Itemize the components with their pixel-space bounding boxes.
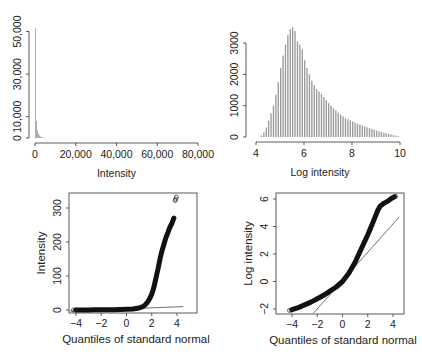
x-tick-label: 10 <box>394 147 406 159</box>
x-tick-label: −2 <box>311 318 323 330</box>
y-tick-label: 10,000 <box>11 100 23 132</box>
y-axis: 0100020003000 <box>228 31 246 140</box>
y-tick-label: 0 <box>51 307 63 313</box>
x-tick-label: 2 <box>149 317 155 329</box>
y-tick-label: 3000 <box>228 31 240 55</box>
y-tick-label: 2 <box>258 251 270 257</box>
histogram-bar <box>36 121 37 138</box>
x-tick-label: 6 <box>301 147 307 159</box>
histogram-bar <box>266 128 267 137</box>
histogram-bar <box>280 68 281 137</box>
qq-points-sparse <box>287 194 397 312</box>
histogram-bar <box>359 124 360 137</box>
histogram-bar <box>357 124 358 137</box>
histogram-bar <box>44 138 45 139</box>
histogram-bar <box>304 60 305 137</box>
x-tick-label: 4 <box>174 317 180 329</box>
histogram-bar <box>340 114 341 137</box>
x-tick-label: 8 <box>349 147 355 159</box>
x-tick-label: 0 <box>32 148 38 160</box>
histogram-bar <box>383 133 384 137</box>
histogram-bar <box>35 28 36 138</box>
histogram-bar <box>333 108 334 137</box>
histogram-bar <box>374 130 375 137</box>
histogram-bar <box>381 132 382 137</box>
histogram-bar <box>369 128 370 137</box>
histogram-bar <box>378 131 379 137</box>
histogram-bar <box>393 135 394 137</box>
histogram-bar <box>282 56 283 137</box>
histogram-bar <box>376 131 377 137</box>
histogram-bar <box>41 137 42 138</box>
y-tick-label: 200 <box>51 233 63 251</box>
histogram-bar <box>321 94 322 137</box>
y-tick-label: 0 <box>258 278 270 284</box>
histogram-bar <box>362 125 363 137</box>
x-axis: −4−2024Quantiles of standard normal <box>269 314 417 346</box>
y-tick-label: 0 <box>228 134 240 140</box>
histogram-bar <box>390 134 391 137</box>
histogram-bar <box>371 129 372 137</box>
histogram-bar <box>311 81 312 137</box>
histogram-bars <box>261 27 399 137</box>
y-axis-label: Intensity <box>35 231 47 274</box>
x-tick-label: −4 <box>286 318 298 330</box>
histogram-bar <box>306 68 307 137</box>
histogram-bar <box>350 120 351 137</box>
x-tick-label: 60,000 <box>141 148 173 160</box>
histogram-bar <box>40 137 41 138</box>
histogram-bar <box>326 100 327 137</box>
histogram-bar <box>366 127 367 137</box>
histogram-bar <box>290 29 291 137</box>
histogram-bar <box>299 45 300 137</box>
plot-area <box>287 194 399 313</box>
histogram-bar <box>398 136 399 137</box>
x-axis-label: Quantiles of standard normal <box>62 333 210 345</box>
histogram-bar <box>316 89 317 137</box>
histogram-bar <box>323 97 324 137</box>
x-tick-label: 20,000 <box>60 148 92 160</box>
x-axis-label: Quantiles of standard normal <box>269 334 417 346</box>
histogram-bar <box>263 132 264 137</box>
histogram-bar <box>330 106 331 137</box>
histogram-bar <box>302 49 303 137</box>
histogram-bar <box>354 123 355 137</box>
histogram-bar <box>37 131 38 138</box>
x-tick-label: 0 <box>340 318 346 330</box>
x-axis: −4−2024Quantiles of standard normal <box>62 313 210 345</box>
x-tick-label: 0 <box>124 317 130 329</box>
histogram-bar <box>268 121 269 137</box>
histogram-bar <box>275 95 276 137</box>
histogram-bar <box>386 133 387 137</box>
histogram-bar <box>273 106 274 137</box>
histogram-bar <box>345 118 346 137</box>
y-tick-label: 30,000 <box>11 58 23 90</box>
histogram-bar <box>318 92 319 137</box>
y-tick-label: 300 <box>51 199 63 217</box>
x-axis-label: Log intensity <box>291 166 351 178</box>
y-axis: 010,00030,00050,000 <box>11 15 29 141</box>
histogram-bar <box>314 85 315 137</box>
x-tick-label: 80,000 <box>182 148 214 160</box>
histogram-bar <box>38 134 39 138</box>
histogram-bar <box>388 134 389 137</box>
histogram-bar <box>261 135 262 137</box>
y-tick-label: 4 <box>258 223 270 229</box>
x-tick-label: 2 <box>365 318 371 330</box>
panel-intensity-qq-plot: −4−2024Quantiles of standard normal01002… <box>35 193 210 345</box>
histogram-bar <box>294 31 295 137</box>
histogram-bar <box>347 119 348 137</box>
y-tick-label: 1000 <box>228 94 240 118</box>
histogram-bar <box>43 138 44 139</box>
y-axis: −20246Log intensity <box>242 196 276 315</box>
x-tick-label: 4 <box>390 318 396 330</box>
histogram-bar <box>352 122 353 137</box>
y-tick-label: 100 <box>51 267 63 285</box>
qq-points-dense <box>76 218 174 310</box>
x-tick-label: −4 <box>70 317 82 329</box>
y-axis-label: Log intensity <box>242 221 254 286</box>
x-tick-label: 4 <box>253 147 259 159</box>
panel-log-intensity-qq-plot: −4−2024Quantiles of standard normal−2024… <box>242 193 417 346</box>
histogram-bar <box>39 135 40 138</box>
panel-log-intensity-histogram: 46810Log intensity0100020003000 <box>228 27 406 178</box>
